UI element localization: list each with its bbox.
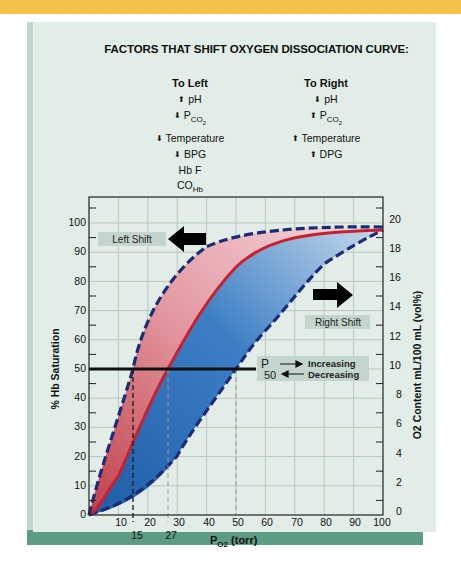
svg-text:10: 10 bbox=[115, 516, 127, 528]
svg-text:20: 20 bbox=[74, 450, 86, 462]
svg-text:14: 14 bbox=[389, 300, 401, 312]
y2-axis-labels: 201816 141210 864 20 bbox=[389, 213, 402, 517]
svg-text:90: 90 bbox=[74, 245, 86, 257]
svg-text:15: 15 bbox=[131, 529, 143, 541]
svg-text:80: 80 bbox=[320, 516, 332, 528]
y2-axis-title: O2 Content mL/100 mL (vol%) bbox=[411, 291, 423, 440]
svg-text:2: 2 bbox=[396, 476, 402, 488]
svg-text:10: 10 bbox=[389, 359, 401, 371]
decreasing-label: Decreasing bbox=[308, 369, 359, 380]
left-arrow-icon bbox=[168, 226, 206, 252]
svg-text:6: 6 bbox=[396, 417, 402, 429]
dissociation-chart: 1009080 706050 403020 100 201816 141210 … bbox=[0, 0, 461, 586]
svg-text:0: 0 bbox=[80, 508, 86, 520]
svg-text:40: 40 bbox=[74, 391, 86, 403]
svg-text:100: 100 bbox=[373, 516, 391, 528]
svg-text:50: 50 bbox=[74, 362, 86, 374]
svg-text:30: 30 bbox=[173, 516, 185, 528]
svg-text:70: 70 bbox=[74, 304, 86, 316]
svg-text:70: 70 bbox=[291, 516, 303, 528]
p50-subscript: 50 bbox=[264, 369, 276, 381]
svg-text:4: 4 bbox=[396, 447, 402, 459]
svg-text:80: 80 bbox=[74, 275, 86, 287]
svg-text:100: 100 bbox=[68, 216, 86, 228]
svg-text:40: 40 bbox=[203, 516, 215, 528]
svg-text:30: 30 bbox=[74, 420, 86, 432]
svg-text:0: 0 bbox=[396, 505, 402, 517]
increasing-label: Increasing bbox=[308, 358, 356, 369]
right-shift-label: Right Shift bbox=[315, 317, 361, 328]
svg-text:8: 8 bbox=[396, 388, 402, 400]
y-axis-title: % Hb Saturation bbox=[49, 328, 61, 409]
svg-text:60: 60 bbox=[261, 516, 273, 528]
svg-text:27: 27 bbox=[165, 529, 177, 541]
right-arrow-icon bbox=[313, 282, 353, 308]
svg-text:20: 20 bbox=[389, 213, 401, 225]
svg-text:10: 10 bbox=[74, 479, 86, 491]
svg-text:50: 50 bbox=[232, 516, 244, 528]
svg-text:20: 20 bbox=[144, 516, 156, 528]
svg-text:90: 90 bbox=[349, 516, 361, 528]
svg-text:60: 60 bbox=[74, 333, 86, 345]
x-axis-title: PO2 (torr) bbox=[210, 534, 258, 549]
svg-text:16: 16 bbox=[389, 271, 401, 283]
svg-text:12: 12 bbox=[389, 330, 401, 342]
left-shift-label: Left Shift bbox=[112, 234, 152, 245]
y-axis-labels: 1009080 706050 403020 100 bbox=[68, 216, 86, 520]
svg-text:18: 18 bbox=[389, 242, 401, 254]
